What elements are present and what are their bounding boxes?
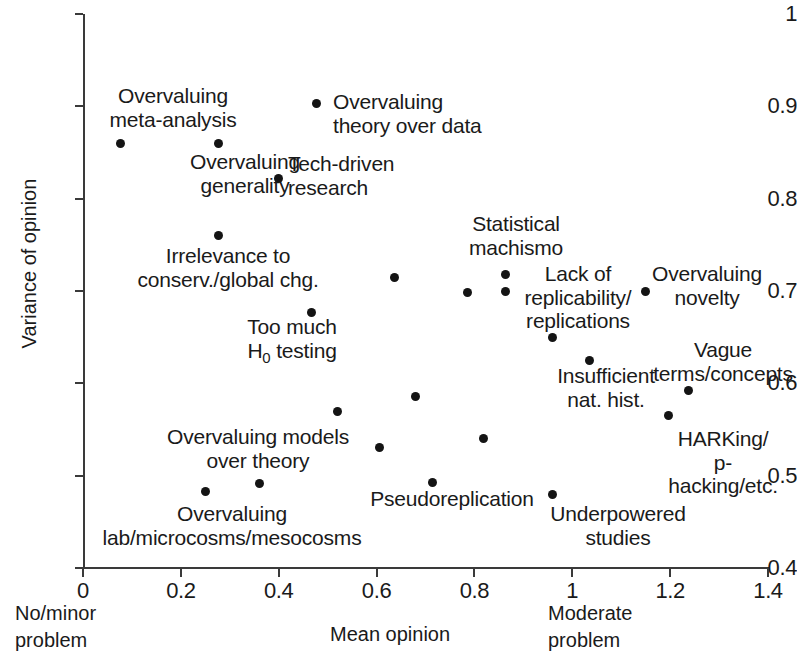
point-label-overvaluing-novelty: Overvaluing novelty — [652, 262, 762, 309]
point-label-overvaluing-theory-over-data: Overvaluing theory over data — [333, 90, 482, 137]
point-label-overvaluing-lab-microcosms: Overvaluing lab/microcosms/mesocosms — [103, 502, 362, 549]
x-axis-tick-label: 1.2 — [655, 578, 684, 604]
data-point — [664, 411, 673, 420]
x-axis-tick — [82, 568, 84, 577]
x-axis-low-note: No/minor problem — [15, 600, 96, 654]
y-axis-tick — [75, 198, 83, 200]
point-label-underpowered-studies: Underpowered studies — [550, 502, 685, 549]
point-label-insufficient-nat-hist: Insufficient nat. hist. — [557, 364, 655, 411]
y-axis-title: Variance of opinion — [18, 104, 41, 424]
x-axis-tick — [571, 568, 573, 577]
data-point — [116, 139, 125, 148]
data-point — [463, 288, 472, 297]
point-label-pseudoreplication: Pseudoreplication — [370, 487, 534, 511]
x-axis-tick-label: 0.6 — [362, 578, 391, 604]
data-point — [214, 231, 223, 240]
y-axis-tick-label: 0.8 — [731, 186, 797, 212]
x-axis-tick — [180, 568, 182, 577]
data-point — [201, 487, 210, 496]
scatter-plot-figure: 0.40.50.60.70.80.91 00.20.40.60.811.21.4… — [0, 0, 797, 656]
point-label-tech-driven-research: Tech-driven research — [288, 152, 394, 199]
y-axis-line — [83, 14, 85, 568]
x-axis-tick-label: 0.8 — [460, 578, 489, 604]
data-point — [501, 270, 510, 279]
x-axis-line — [83, 567, 769, 569]
data-point — [312, 99, 321, 108]
data-point — [548, 333, 557, 342]
point-label-vague-terms-concepts: Vague terms/concepts — [653, 338, 793, 385]
point-label-harking-p-hacking: HARKing/ p-hacking/etc. — [668, 427, 778, 498]
data-point — [214, 139, 223, 148]
x-axis-tick-label: 0.2 — [166, 578, 195, 604]
point-label-overvaluing-models-over-theory: Overvaluing models over theory — [167, 425, 349, 472]
point-label-overvaluing-generality: Overvaluing generality — [190, 150, 300, 197]
point-label-lack-of-replicability: Lack of replicability/ replications — [525, 262, 632, 333]
x-axis-high-note: Moderate problem — [548, 600, 633, 654]
data-point — [375, 443, 384, 452]
data-point — [333, 407, 342, 416]
point-label-too-much-h0-testing: Too muchH0 testing — [247, 315, 336, 367]
data-point — [501, 287, 510, 296]
y-axis-tick — [75, 105, 83, 107]
x-axis-tick — [376, 568, 378, 577]
x-axis-tick — [767, 568, 769, 577]
y-axis-tick-label: 1 — [731, 1, 797, 27]
y-axis-tick — [75, 290, 83, 292]
y-axis-tick-label: 0.9 — [731, 93, 797, 119]
x-axis-tick-label: 1.4 — [753, 578, 782, 604]
point-label-statistical-machismo: Statistical machismo — [469, 212, 563, 259]
x-axis-tick — [473, 568, 475, 577]
data-point — [411, 392, 420, 401]
y-axis-tick — [75, 382, 83, 384]
data-point — [390, 273, 399, 282]
data-point — [641, 287, 650, 296]
point-label-irrelevance-conservation: Irrelevance to conserv./global chg. — [137, 244, 318, 291]
y-axis-tick — [75, 475, 83, 477]
data-point — [428, 478, 437, 487]
data-point — [255, 479, 264, 488]
x-axis-title: Mean opinion — [330, 623, 450, 646]
data-point — [684, 386, 693, 395]
x-axis-tick-label: 0.4 — [264, 578, 293, 604]
data-point — [548, 490, 557, 499]
x-axis-tick — [278, 568, 280, 577]
data-point — [479, 434, 488, 443]
x-axis-tick — [669, 568, 671, 577]
y-axis-tick — [75, 13, 83, 15]
point-label-overvaluing-meta-analysis: Overvaluing meta-analysis — [110, 84, 237, 131]
